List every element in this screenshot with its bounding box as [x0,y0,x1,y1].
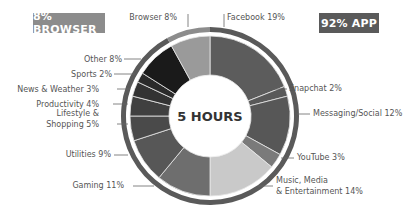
label-facebook: Facebook 19% [227,13,285,22]
center-label: 5 HOURS [177,109,242,124]
label-messaging-social: Messaging/Social 12% [313,109,403,118]
label-music-media-entertainment: Music, Media& Entertainment 14% [276,176,363,196]
label-utilities: Utilities 9% [66,150,112,159]
label-youtube: YouTube 3% [296,153,345,162]
label-news-weather: News & Weather 3% [17,85,99,94]
label-gaming: Gaming 11% [72,181,124,190]
label-productivity: Productivity 4% [36,100,99,109]
label-sports: Sports 2% [71,70,112,79]
label-lifestyle-shopping: Lifestyle &Shopping 5% [46,109,99,129]
label-other: Other 8% [84,55,122,64]
label-snapchat: Snapchat 2% [289,84,342,93]
label-browser: Browser 8% [129,13,177,22]
donut-chart: Facebook 19%Snapchat 2%Messaging/Social … [0,0,419,219]
